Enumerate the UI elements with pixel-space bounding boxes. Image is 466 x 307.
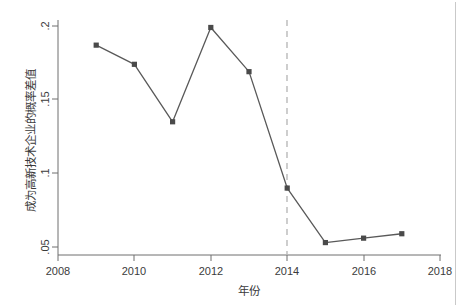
x-tick-label-2010: 2010 (122, 265, 146, 277)
data-point-2014 (285, 185, 290, 190)
data-point-2011 (170, 119, 175, 124)
line-chart-plot: .2 .15 .1 .05 成为高新技术企业的概率差值 2008 2010 20… (0, 0, 466, 307)
series-line (96, 27, 402, 242)
y-axis-ticks (52, 26, 58, 247)
x-tick-label-2016: 2016 (352, 265, 376, 277)
x-tick-label-2012: 2012 (199, 265, 223, 277)
x-axis-ticks (58, 255, 440, 261)
y-axis-title: 成为高新技术企业的概率差值 (24, 68, 37, 212)
data-point-2016 (361, 236, 366, 241)
data-point-2010 (132, 62, 137, 67)
series-markers (94, 25, 405, 245)
y-axis-tick-labels: .2 .15 .1 .05 (39, 21, 51, 254)
y-tick-label-0.2: .2 (39, 21, 51, 30)
x-tick-label-2018: 2018 (428, 265, 452, 277)
data-point-2009 (94, 43, 99, 48)
data-point-2013 (246, 69, 251, 74)
x-axis-tick-labels: 2008 2010 2012 2014 2016 2018 (46, 265, 452, 277)
y-tick-label-0.1: .1 (39, 168, 51, 177)
x-tick-label-2008: 2008 (46, 265, 70, 277)
data-point-2015 (323, 240, 328, 245)
x-tick-label-2014: 2014 (275, 265, 299, 277)
data-series-group (94, 25, 405, 245)
data-point-2017 (399, 231, 404, 236)
y-tick-label-0.05: .05 (39, 239, 51, 254)
x-axis-title: 年份 (238, 284, 261, 297)
data-point-2012 (208, 25, 213, 30)
y-tick-label-0.15: .15 (39, 91, 51, 106)
chart-figure: .2 .15 .1 .05 成为高新技术企业的概率差值 2008 2010 20… (0, 0, 466, 307)
